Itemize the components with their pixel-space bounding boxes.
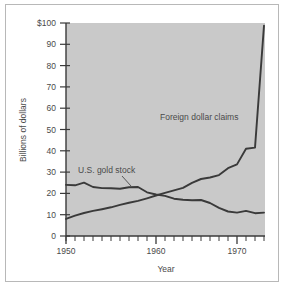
plot-area-background xyxy=(66,23,265,236)
y-axis-title: Billions of dollars xyxy=(18,98,28,162)
x-axis-title: Year xyxy=(157,264,174,274)
y-tick-label-30: 30 xyxy=(47,167,57,177)
y-tick-label-90: 90 xyxy=(47,39,57,49)
y-tick-label-60: 60 xyxy=(47,103,57,113)
y-tick-label-50: 50 xyxy=(47,125,57,135)
y-tick-label-20: 20 xyxy=(47,188,57,198)
x-axis-major-ticks xyxy=(66,236,237,244)
annotation-label-us-gold-stock: U.S. gold stock xyxy=(78,165,136,175)
x-tick-label-1950: 1950 xyxy=(57,246,76,256)
y-tick-label-80: 80 xyxy=(47,61,57,71)
chart-figure: $100 90 80 70 60 50 40 30 20 10 0 xyxy=(0,0,286,288)
line-chart: $100 90 80 70 60 50 40 30 20 10 0 xyxy=(0,0,286,288)
y-tick-label-10: 10 xyxy=(47,210,57,220)
y-tick-label-100: $100 xyxy=(37,18,56,28)
y-tick-label-0: 0 xyxy=(51,231,56,241)
y-tick-label-40: 40 xyxy=(47,146,57,156)
x-tick-label-1970: 1970 xyxy=(228,246,247,256)
x-tick-label-1960: 1960 xyxy=(147,246,166,256)
x-axis-minor-ticks xyxy=(66,236,264,241)
y-tick-label-70: 70 xyxy=(47,82,57,92)
annotation-label-foreign-dollar-claims: Foreign dollar claims xyxy=(160,112,238,122)
